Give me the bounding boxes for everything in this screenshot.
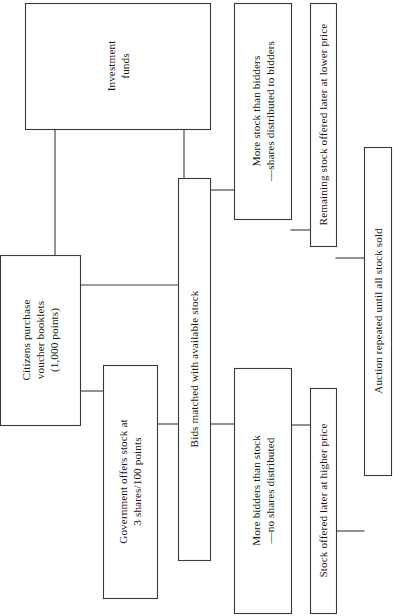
node-label-investment-funds-line-0: Investment [105, 40, 117, 92]
node-label-citizens-purchase-line-0: Citizens purchase [20, 300, 32, 381]
node-label-remaining-stock-lower-price-line-0: Remaining stock offered later at lower p… [317, 24, 329, 226]
node-label-more-stock-than-bidders-line-0: More stock than bidders [250, 56, 262, 167]
node-remaining-stock-lower-price: Remaining stock offered later at lower p… [311, 4, 337, 247]
node-more-stock-than-bidders: More stock than bidders—shares distribut… [235, 4, 292, 220]
node-label-more-stock-than-bidders-line-1: —shares distributed to bidders [264, 41, 276, 182]
node-bids-matched: Bids matched with available stock [179, 179, 211, 561]
node-auction-repeated: Auction repeated until all stock sold [365, 148, 392, 476]
node-label-government-offers-stock-line-1: 3 shares/100 points [131, 437, 143, 525]
node-label-bids-matched-line-0: Bids matched with available stock [188, 290, 200, 447]
nodes-layer: InvestmentfundsCitizens purchasevoucher … [1, 4, 392, 614]
node-more-bidders-than-stock: More bidders than stock—no shares distri… [235, 369, 292, 614]
node-government-offers-stock: Government offers stock at3 shares/100 p… [104, 366, 158, 599]
node-label-investment-funds-line-1: funds [119, 53, 131, 78]
node-label-government-offers-stock-line-0: Government offers stock at [117, 418, 129, 543]
node-label-citizens-purchase-line-1: voucher booklets [34, 301, 46, 379]
node-label-more-bidders-than-stock-line-1: —no shares distributed [264, 437, 276, 544]
flowchart-diagram: InvestmentfundsCitizens purchasevoucher … [0, 0, 393, 616]
node-citizens-purchase: Citizens purchasevoucher booklets(1,000 … [1, 256, 81, 426]
node-label-auction-repeated-line-0: Auction repeated until all stock sold [372, 228, 384, 394]
flowchart-canvas: InvestmentfundsCitizens purchasevoucher … [0, 0, 393, 616]
node-label-stock-offered-higher-price-line-0: Stock offered later at higher price [317, 424, 329, 578]
node-label-more-bidders-than-stock-line-0: More bidders than stock [250, 435, 262, 546]
node-investment-funds: Investmentfunds [26, 4, 211, 130]
node-label-citizens-purchase-line-2: (1,000 points) [48, 308, 61, 372]
node-stock-offered-higher-price: Stock offered later at higher price [311, 389, 337, 614]
